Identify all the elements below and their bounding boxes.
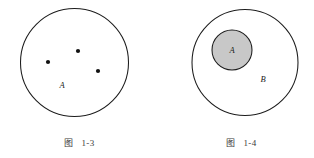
- caption-label-cjk: 图: [226, 138, 235, 148]
- element-point: [46, 60, 50, 64]
- set-label-a: A: [228, 45, 235, 55]
- figure-1-4-group: A B: [192, 10, 298, 116]
- set-label-a: A: [58, 80, 65, 90]
- caption-figure-1-4: 图 1-4: [226, 138, 257, 148]
- set-diagram-canvas: A A B 图 1-3 图 1-4: [0, 0, 314, 158]
- element-point: [76, 49, 80, 53]
- figure-1-3-group: A: [21, 9, 129, 117]
- caption-figure-1-3: 图 1-3: [64, 138, 95, 148]
- figure-sheet: A A B 图 1-3 图 1-4: [0, 0, 314, 158]
- set-label-b: B: [260, 74, 265, 84]
- caption-number: 1-4: [244, 138, 257, 148]
- set-a-circle-outline: [21, 9, 129, 117]
- element-point: [96, 69, 100, 73]
- caption-number: 1-3: [82, 138, 95, 148]
- caption-label-cjk: 图: [64, 138, 73, 148]
